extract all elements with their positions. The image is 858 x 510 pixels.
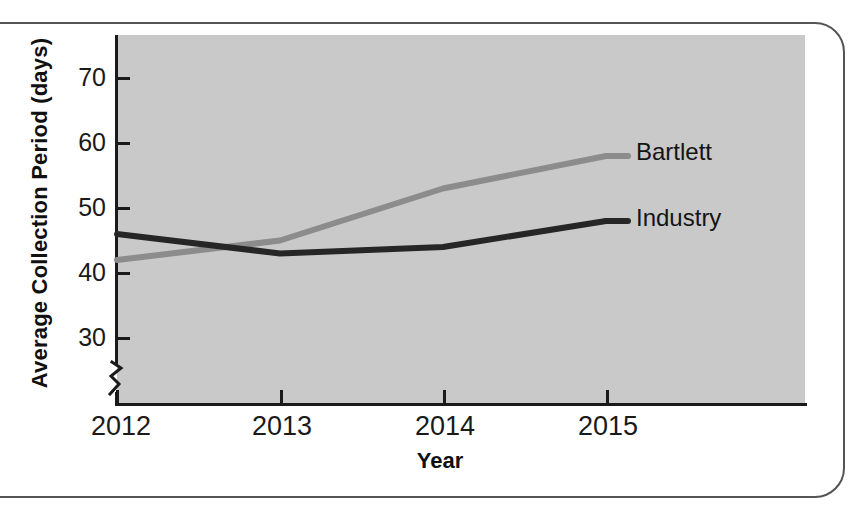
series-lines <box>0 0 858 510</box>
y-axis-title: Average Collection Period (days) <box>27 13 53 413</box>
x-axis-title: Year <box>340 448 540 474</box>
series-label-bartlett: Bartlett <box>636 140 712 164</box>
series-label-industry: Industry <box>636 206 721 230</box>
line-chart: 70 60 50 40 30 2012 2013 2014 2015 <box>0 0 858 510</box>
chart-page: 70 60 50 40 30 2012 2013 2014 2015 <box>0 0 858 510</box>
